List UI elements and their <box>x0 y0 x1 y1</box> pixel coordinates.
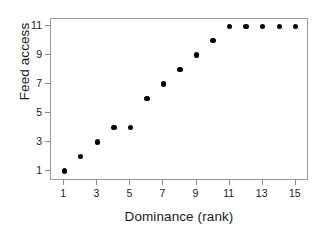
x-tick-label: 1 <box>48 187 78 199</box>
x-tick-mark <box>129 180 130 185</box>
x-tick-label: 3 <box>81 187 111 199</box>
y-tick-label: 5 <box>2 106 42 118</box>
data-point <box>194 52 199 57</box>
data-point <box>243 24 248 29</box>
x-tick-mark <box>162 180 163 185</box>
data-point <box>144 96 149 101</box>
x-tick-label: 5 <box>114 187 144 199</box>
plot-frame <box>50 18 308 180</box>
data-point <box>293 24 298 29</box>
y-tick-label: 1 <box>2 164 42 176</box>
data-point <box>277 24 282 29</box>
y-tick-label: 9 <box>2 48 42 60</box>
data-point <box>78 154 83 159</box>
data-point <box>62 168 67 173</box>
x-tick-label: 11 <box>214 187 244 199</box>
x-axis-title: Dominance (rank) <box>50 209 308 224</box>
x-tick-label: 9 <box>181 187 211 199</box>
y-tick-label: 7 <box>2 77 42 89</box>
x-tick-mark <box>63 180 64 185</box>
data-point <box>161 81 166 86</box>
x-tick-label: 13 <box>247 187 277 199</box>
y-tick-label: 11 <box>2 19 42 31</box>
y-tick-label: 3 <box>2 135 42 147</box>
scatter-chart-figure: Feed access Dominance (rank) 1357911 135… <box>0 0 320 239</box>
x-tick-mark <box>262 180 263 185</box>
x-tick-mark <box>229 180 230 185</box>
data-point <box>128 125 133 130</box>
x-tick-mark <box>196 180 197 185</box>
x-tick-label: 7 <box>147 187 177 199</box>
data-point <box>227 24 232 29</box>
data-point <box>111 125 116 130</box>
data-point <box>260 24 265 29</box>
data-point <box>210 38 215 43</box>
plot-area <box>51 19 307 179</box>
x-tick-mark <box>96 180 97 185</box>
data-point <box>177 67 182 72</box>
x-tick-mark <box>295 180 296 185</box>
x-tick-label: 15 <box>280 187 310 199</box>
data-point <box>95 139 100 144</box>
